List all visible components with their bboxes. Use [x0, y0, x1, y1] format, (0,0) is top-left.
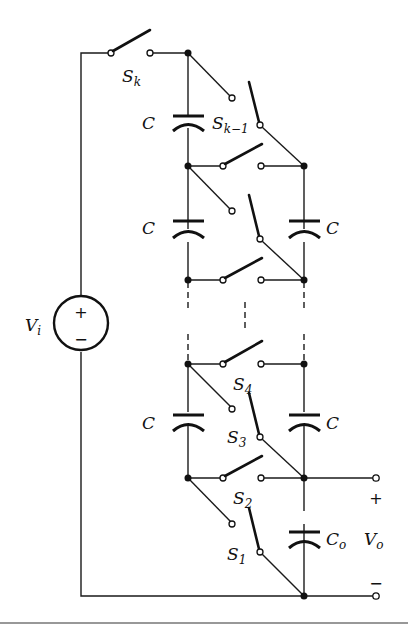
cap-label-right-low: C [326, 413, 339, 433]
output-minus: − [369, 574, 382, 593]
output-voltage-label: Vo [364, 529, 384, 552]
voltage-source-icon: + − [54, 296, 108, 350]
switch-label-s3: S3 [227, 427, 247, 450]
cap-label-left-mid: C [142, 218, 155, 238]
output-plus: + [369, 489, 382, 508]
switch-sk [108, 30, 188, 56]
switch-s1 [188, 478, 304, 596]
switch-row-166 [188, 144, 304, 169]
cap-label-left-top: C [142, 113, 155, 133]
switch-row-280 [188, 258, 304, 283]
cap-label-left-low: C [142, 413, 155, 433]
cap-label-output: Co [326, 529, 346, 552]
switch-s4 [188, 341, 304, 367]
switch-label-s1: S1 [227, 544, 246, 567]
switch-s2 [188, 456, 374, 481]
source-plus: + [74, 303, 87, 322]
circuit-diagram: + − Vi Sk C C [0, 0, 408, 632]
switch-label-sk: Sk [122, 66, 141, 89]
switch-sk-1 [188, 53, 304, 166]
source-label: Vi [25, 315, 41, 338]
switch-diag-mid [188, 166, 304, 280]
switch-label-sk-1: Sk−1 [212, 113, 249, 136]
cap-label-right-mid: C [326, 218, 339, 238]
source-minus: − [74, 330, 87, 349]
switch-s3 [188, 364, 304, 478]
